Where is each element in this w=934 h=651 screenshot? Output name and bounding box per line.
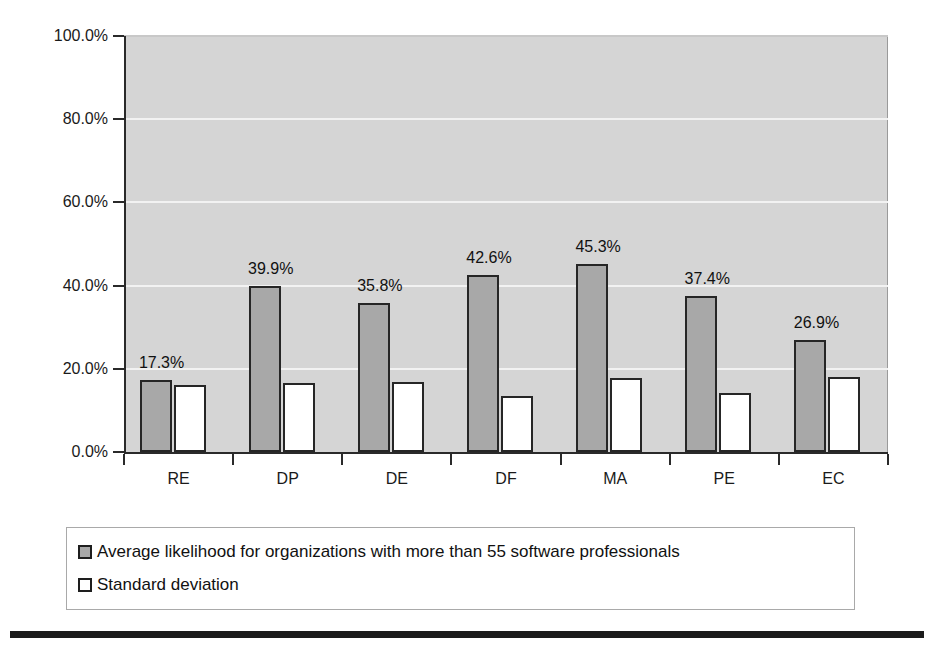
legend-label: Average likelihood for organizations wit… [97,542,680,562]
bar [283,383,315,452]
bar-data-label: 39.9% [248,260,293,278]
bar [719,393,751,452]
x-axis-tick [450,454,452,465]
x-axis-tick-label: DF [495,470,516,488]
bar [501,396,533,452]
x-axis-tick-label: DP [277,470,299,488]
x-axis-tick [123,454,125,465]
legend-item-average-likelihood: Average likelihood for organizations wit… [78,540,680,564]
bottom-horizontal-rule [10,631,924,638]
bar [794,340,826,452]
y-axis-tick [113,118,124,120]
bar [828,377,860,452]
bar-data-label: 35.8% [357,277,402,295]
x-axis-tick [341,454,343,465]
figure: 0.0%20.0%40.0%60.0%80.0%100.0% REDPDEDFM… [0,0,934,651]
y-axis-tick-label: 100.0% [8,27,108,45]
y-axis-tick-label: 40.0% [8,277,108,295]
bar-data-label: 37.4% [685,270,730,288]
y-axis-tick-label: 80.0% [8,110,108,128]
x-axis-tick [669,454,671,465]
bar [576,264,608,452]
bar-data-label: 42.6% [466,249,511,267]
y-axis-tick-label: 60.0% [8,193,108,211]
legend-item-standard-deviation: Standard deviation [78,573,239,597]
bar [467,275,499,452]
legend-swatch-hollow-icon [78,578,92,592]
x-axis-tick-label: EC [822,470,844,488]
y-axis-tick [113,451,124,453]
bar-data-label: 17.3% [139,354,184,372]
y-axis-tick [113,35,124,37]
gridline [124,35,888,37]
x-axis-tick [232,454,234,465]
gridline [124,368,888,370]
gridline [124,118,888,120]
x-axis-tick-label: RE [167,470,189,488]
y-axis-tick-label: 0.0% [8,443,108,461]
bar [392,382,424,452]
gridline [124,201,888,203]
plot-area [124,36,888,452]
legend-swatch-filled-icon [78,545,92,559]
bar [140,380,172,452]
x-axis-tick-label: DE [386,470,408,488]
x-axis-tick-label: MA [603,470,627,488]
y-axis-tick-labels: 0.0%20.0%40.0%60.0%80.0%100.0% [0,0,108,500]
y-axis-tick [113,368,124,370]
bar [249,286,281,452]
y-axis-line [124,36,126,454]
x-axis-line [124,452,888,454]
bar [610,378,642,452]
bar-data-label: 26.9% [794,314,839,332]
bar-chart: 0.0%20.0%40.0%60.0%80.0%100.0% REDPDEDFM… [0,0,934,500]
bar [358,303,390,452]
legend-label: Standard deviation [97,575,239,595]
x-axis-tick [778,454,780,465]
y-axis-tick [113,285,124,287]
y-axis-tick-label: 20.0% [8,360,108,378]
bar-data-label: 45.3% [575,238,620,256]
x-axis-tick-label: PE [714,470,735,488]
x-axis-tick [887,454,889,465]
bar [685,296,717,452]
gridline [124,285,888,287]
x-axis-tick [560,454,562,465]
bar [174,385,206,452]
y-axis-tick [113,201,124,203]
chart-legend: Average likelihood for organizations wit… [66,527,855,610]
